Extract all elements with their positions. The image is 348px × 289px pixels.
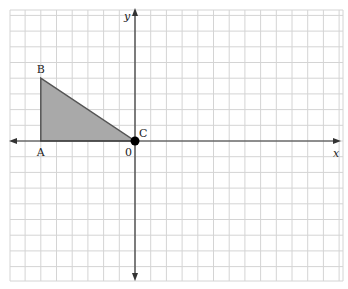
- vertex-label-c: C: [139, 127, 147, 140]
- y-axis-arrow-up-icon: [132, 8, 138, 16]
- y-axis-arrow-down-icon: [132, 273, 138, 281]
- x-axis-label: x: [333, 147, 340, 160]
- grid-lines: [10, 10, 343, 281]
- vertex-label-a: A: [36, 146, 46, 159]
- x-axis-arrow-right-icon: [333, 138, 341, 144]
- coordinate-plane: A B C 0 x y: [0, 0, 348, 289]
- y-axis-label: y: [123, 10, 131, 23]
- coordinate-plane-figure: A B C 0 x y: [0, 0, 348, 289]
- vertex-label-b: B: [37, 63, 45, 76]
- axes: [9, 8, 341, 281]
- origin-label: 0: [125, 146, 132, 159]
